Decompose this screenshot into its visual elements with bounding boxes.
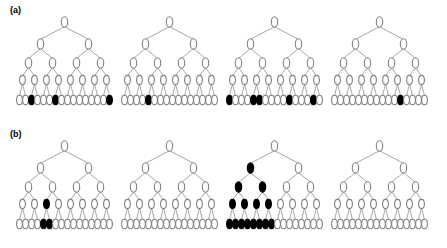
tree-a-2-level-0 <box>166 17 172 27</box>
tree-node-empty <box>154 58 160 68</box>
tree-edge <box>194 173 206 183</box>
tree-edge <box>59 208 62 220</box>
tree-edge <box>89 173 101 183</box>
tree-node-empty <box>23 95 29 105</box>
tree-edge <box>410 208 413 220</box>
tree-edge <box>263 192 269 200</box>
tree-node-marked <box>287 95 293 105</box>
tree-edge <box>344 173 356 183</box>
tree-a-2 <box>117 0 222 124</box>
tree-node-empty <box>283 58 289 68</box>
tree-edge <box>140 84 143 96</box>
tree-b-2-level-0 <box>166 141 172 151</box>
tree-edge <box>335 84 338 96</box>
tree-node-empty <box>295 39 301 49</box>
tree-node-empty <box>338 219 344 229</box>
tree-edge <box>404 49 416 59</box>
tree-node-empty <box>386 219 392 229</box>
tree-edge <box>212 208 215 220</box>
tree-edge <box>47 208 50 220</box>
tree-a-3-level-4 <box>227 95 323 105</box>
tree-node-empty <box>173 199 179 208</box>
tree-a-3-level-2 <box>235 58 313 68</box>
tree-edge <box>104 208 107 220</box>
tree-edge <box>293 208 296 220</box>
tree-edge <box>41 27 65 40</box>
tree-node-empty <box>49 58 55 68</box>
tree-node-empty <box>281 219 287 229</box>
tree-node-empty <box>275 219 281 229</box>
tree-node-empty <box>290 75 296 84</box>
tree-node-marked <box>239 219 245 229</box>
tree-node-empty <box>344 219 350 229</box>
tree-node-empty <box>35 95 41 105</box>
tree-edge <box>305 208 308 220</box>
tree-node-empty <box>134 95 140 105</box>
tree-edge <box>35 84 38 96</box>
tree-node-empty <box>419 199 425 208</box>
tree-edge <box>128 192 134 200</box>
tree-node-empty <box>410 95 416 105</box>
tree-b-3-canvas <box>222 124 327 248</box>
tree-edge <box>281 192 287 200</box>
tree-edge <box>164 208 167 220</box>
tree-edge <box>137 84 140 96</box>
tree-edge <box>317 84 320 96</box>
tree-node-empty <box>278 75 284 84</box>
tree-edge <box>104 84 107 96</box>
tree-node-marked <box>242 199 248 208</box>
tree-edge <box>194 49 206 59</box>
tree-a-2-level-3 <box>125 75 215 84</box>
tree-node-empty <box>101 95 107 105</box>
tree-edge <box>281 208 284 220</box>
tree-node-empty <box>206 95 212 105</box>
tree-edge <box>35 208 38 220</box>
tree-edge <box>422 208 425 220</box>
tree-edge <box>350 84 353 96</box>
tree-edge <box>134 173 146 183</box>
tree-node-empty <box>245 95 251 105</box>
tree-node-empty <box>344 95 350 105</box>
tree-node-empty <box>356 219 362 229</box>
tree-node-empty <box>194 219 200 229</box>
tree-node-empty <box>37 39 43 49</box>
tree-edge <box>158 68 164 76</box>
tree-node-empty <box>290 199 296 208</box>
tree-edge <box>383 208 386 220</box>
tree-node-empty <box>130 58 136 68</box>
tree-node-empty <box>137 75 143 84</box>
tree-node-empty <box>212 219 218 229</box>
tree-a-3 <box>222 0 327 124</box>
tree-edge <box>134 68 140 76</box>
tree-edge <box>56 208 59 220</box>
tree-node-empty <box>158 219 164 229</box>
tree-node-empty <box>85 163 91 173</box>
tree-edge <box>305 68 311 76</box>
tree-node-empty <box>364 182 370 192</box>
tree-a-4-level-0 <box>376 17 382 27</box>
tree-edge <box>83 208 86 220</box>
tree-edge <box>356 49 368 59</box>
tree-edge <box>368 68 374 76</box>
tree-b-3-edges <box>230 151 320 220</box>
tree-node-empty <box>247 39 253 49</box>
tree-node-empty <box>299 95 305 105</box>
tree-node-empty <box>416 95 422 105</box>
tree-edge <box>275 27 299 40</box>
tree-node-empty <box>77 219 83 229</box>
tree-node-empty <box>154 182 160 192</box>
tree-node-empty <box>53 219 59 229</box>
tree-b-3-level-3 <box>230 199 320 208</box>
tree-edge <box>419 84 422 96</box>
tree-node-empty <box>305 95 311 105</box>
tree-edge <box>44 84 47 96</box>
tree-edge <box>188 84 191 96</box>
tree-edge <box>281 84 284 96</box>
tree-a-3-edges <box>230 27 320 96</box>
tree-node-empty <box>49 182 55 192</box>
tree-edge <box>266 84 269 96</box>
tree-node-marked <box>227 95 233 105</box>
tree-edge <box>239 49 251 59</box>
tree-node-empty <box>149 75 155 84</box>
tree-node-empty <box>335 199 341 208</box>
